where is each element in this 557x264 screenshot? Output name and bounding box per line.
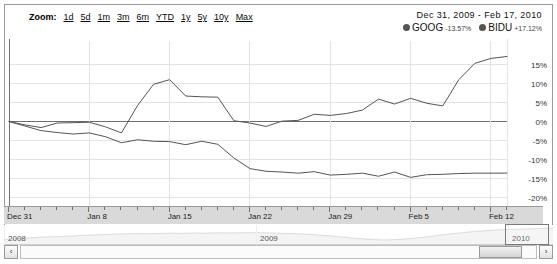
y-axis-tick-label: 10% bbox=[531, 80, 547, 89]
chart-toolbar: Zoom: 1d 5d 1m 3m 6m YTD 1y 5y 10y Max D… bbox=[5, 5, 552, 35]
x-axis-tick bbox=[153, 207, 154, 210]
x-axis-tick bbox=[233, 207, 234, 210]
zoom-link-1m[interactable]: 1m bbox=[98, 12, 111, 22]
x-axis-tick bbox=[442, 207, 443, 210]
x-axis-tick bbox=[506, 207, 507, 210]
x-axis-tick bbox=[185, 207, 186, 210]
x-axis-tick bbox=[56, 207, 57, 210]
navigator-year-2009: 2009 bbox=[260, 234, 278, 243]
scrollbar-track[interactable] bbox=[20, 245, 537, 259]
x-axis-tick bbox=[458, 207, 459, 210]
zoom-link-5d[interactable]: 5d bbox=[81, 12, 91, 22]
y-axis-tick-label: -15% bbox=[528, 175, 547, 184]
y-axis-tick-label: -5% bbox=[533, 137, 547, 146]
plot-area[interactable]: 15%10%5%0%-5%-10%-15%-20% bbox=[5, 35, 552, 211]
zoom-link-5y[interactable]: 5y bbox=[198, 12, 208, 22]
zoom-link-1d[interactable]: 1d bbox=[64, 12, 74, 22]
x-axis-tick-label: Jan 15 bbox=[168, 212, 192, 221]
legend-dot-bidu bbox=[479, 24, 486, 31]
x-axis-tick-label: Jan 22 bbox=[248, 212, 272, 221]
zoom-label: Zoom: bbox=[29, 12, 57, 22]
series-legend: GOOG -13.57% BIDU +17.12% bbox=[395, 22, 542, 33]
legend-name-bidu: BIDU bbox=[488, 22, 512, 33]
scroll-right-arrow-icon[interactable]: › bbox=[539, 245, 553, 259]
scroll-left-arrow-icon[interactable]: ‹ bbox=[4, 245, 18, 259]
series-line-goog bbox=[9, 122, 507, 178]
legend-name-goog: GOOG bbox=[412, 22, 443, 33]
zoom-link-ytd[interactable]: YTD bbox=[156, 12, 174, 22]
x-axis-tick bbox=[345, 207, 346, 210]
y-axis-tick-label: 15% bbox=[531, 61, 547, 70]
range-and-legend: Dec 31, 2009 - Feb 17, 2010 GOOG -13.57%… bbox=[395, 10, 542, 33]
x-axis-tick bbox=[297, 207, 298, 210]
x-axis-tick bbox=[281, 207, 282, 210]
x-axis: Dec 31Jan 8Jan 15Jan 22Jan 29Feb 5Feb 12 bbox=[4, 206, 543, 224]
chart-frame: Zoom: 1d 5d 1m 3m 6m YTD 1y 5y 10y Max D… bbox=[4, 4, 553, 240]
zoom-link-10y[interactable]: 10y bbox=[214, 12, 229, 22]
x-axis-tick bbox=[474, 207, 475, 210]
x-axis-tick-label: Jan 29 bbox=[328, 212, 352, 221]
y-axis-tick-label: -20% bbox=[528, 194, 547, 203]
x-axis-tick bbox=[361, 207, 362, 210]
x-axis-tick bbox=[377, 207, 378, 210]
legend-item-goog[interactable]: GOOG -13.57% bbox=[403, 22, 471, 33]
legend-dot-goog bbox=[403, 24, 410, 31]
x-axis-tick-label: Jan 8 bbox=[87, 212, 107, 221]
zoom-controls: Zoom: 1d 5d 1m 3m 6m YTD 1y 5y 10y Max bbox=[29, 12, 260, 22]
navigator-year-2008: 2008 bbox=[8, 234, 26, 243]
y-axis-tick-label: -10% bbox=[528, 156, 547, 165]
x-axis-tick bbox=[201, 207, 202, 210]
y-axis-tick-label: 5% bbox=[535, 99, 547, 108]
navigator-selection-handle[interactable] bbox=[505, 224, 549, 245]
range-navigator[interactable]: 2008 2009 2010 bbox=[4, 225, 553, 245]
x-axis-tick-label: Feb 12 bbox=[489, 212, 514, 221]
legend-item-bidu[interactable]: BIDU +17.12% bbox=[479, 22, 542, 33]
x-axis-tick bbox=[426, 207, 427, 210]
zoom-link-max[interactable]: Max bbox=[236, 12, 253, 22]
x-axis-tick bbox=[120, 207, 121, 210]
legend-change-bidu: +17.12% bbox=[514, 25, 542, 32]
x-axis-tick bbox=[313, 207, 314, 210]
x-axis-tick bbox=[265, 207, 266, 210]
x-axis-tick bbox=[217, 207, 218, 210]
date-range-label: Dec 31, 2009 - Feb 17, 2010 bbox=[395, 10, 542, 20]
x-axis-tick bbox=[72, 207, 73, 210]
zoom-link-1y[interactable]: 1y bbox=[181, 12, 191, 22]
x-axis-tick-label: Feb 5 bbox=[409, 212, 429, 221]
x-axis-tick bbox=[40, 207, 41, 210]
zoom-link-3m[interactable]: 3m bbox=[117, 12, 130, 22]
x-axis-tick bbox=[394, 207, 395, 210]
stock-chart-widget: Zoom: 1d 5d 1m 3m 6m YTD 1y 5y 10y Max D… bbox=[0, 0, 557, 264]
x-axis-tick bbox=[137, 207, 138, 210]
navigator-svg[interactable] bbox=[4, 225, 553, 245]
x-axis-tick bbox=[24, 207, 25, 210]
zoom-link-6m[interactable]: 6m bbox=[137, 12, 150, 22]
x-axis-tick-label: Dec 31 bbox=[7, 212, 32, 221]
x-axis-tick bbox=[104, 207, 105, 210]
y-axis-tick-label: 0% bbox=[535, 118, 547, 127]
price-chart-svg[interactable]: 15%10%5%0%-5%-10%-15%-20% bbox=[5, 35, 552, 211]
scrollbar-thumb[interactable] bbox=[479, 246, 522, 258]
horizontal-scrollbar[interactable]: ‹ › bbox=[4, 245, 553, 260]
legend-change-goog: -13.57% bbox=[445, 25, 471, 32]
